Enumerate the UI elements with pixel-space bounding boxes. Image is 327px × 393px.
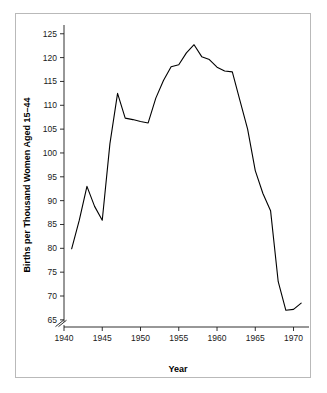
x-tick-label: 1940 [55, 333, 74, 343]
y-tick-label: 120 [43, 53, 57, 63]
y-tick-label: 65 [48, 315, 58, 325]
x-tick-label: 1955 [169, 333, 188, 343]
y-axis-ticks: 65707580859095100105110115120125 [43, 29, 64, 325]
x-tick-label: 1970 [284, 333, 303, 343]
x-tick-label: 1945 [93, 333, 112, 343]
x-axis-ticks: 1940194519501955196019651970 [55, 327, 304, 343]
y-tick-label: 85 [48, 219, 58, 229]
y-tick-label: 80 [48, 243, 58, 253]
x-tick-label: 1960 [208, 333, 227, 343]
y-tick-label: 125 [43, 29, 57, 39]
line-chart-plot: 65707580859095100105110115120125 1940194… [0, 0, 327, 393]
y-tick-label: 115 [43, 76, 57, 86]
y-tick-label: 100 [43, 148, 57, 158]
y-tick-label: 70 [48, 291, 58, 301]
x-tick-label: 1950 [131, 333, 150, 343]
data-series-birth-rate [72, 45, 302, 311]
x-axis-title: Year [168, 364, 188, 374]
y-tick-label: 75 [48, 267, 58, 277]
y-tick-label: 95 [48, 172, 58, 182]
y-axis-break-icon [56, 320, 67, 326]
y-tick-label: 90 [48, 196, 58, 206]
y-tick-label: 105 [43, 124, 57, 134]
chart-figure: 65707580859095100105110115120125 1940194… [0, 0, 327, 393]
y-axis-title: Births per Thousand Women Aged 15–44 [22, 97, 32, 272]
x-tick-label: 1965 [246, 333, 265, 343]
y-tick-label: 110 [43, 100, 57, 110]
